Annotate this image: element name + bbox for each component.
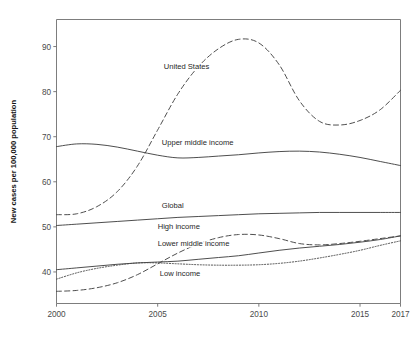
y-tick-label: 50 — [42, 223, 52, 232]
series-line-upper-middle-income — [57, 144, 401, 166]
y-tick-label: 90 — [42, 43, 52, 52]
y-axis-title: New cases per 100,000 population — [9, 100, 18, 224]
series-label-high-income: High income — [158, 222, 200, 231]
y-tick-label: 70 — [42, 133, 52, 142]
plot-frame — [57, 20, 401, 304]
series-label-low-income: Low income — [160, 269, 201, 278]
y-tick-label: 80 — [42, 88, 52, 97]
line-chart: 40506070809020002005201020152017 United … — [0, 0, 417, 339]
series-label-upper-middle-income: Upper middle income — [162, 138, 234, 147]
series-line-united-states — [57, 39, 401, 215]
x-tick-label: 2010 — [250, 310, 269, 319]
series-labels: United StatesUnited StatesUpper middle i… — [158, 62, 234, 277]
x-tick-label: 2000 — [47, 310, 66, 319]
series-label-lower-middle-income: Lower middle income — [158, 239, 230, 248]
y-axis-title-text: New cases per 100,000 population — [9, 100, 18, 224]
series-line-global — [57, 212, 401, 225]
axes: 40506070809020002005201020152017 — [42, 20, 410, 319]
series-label-united-states: United States — [164, 62, 210, 71]
x-tick-label: 2017 — [391, 310, 410, 319]
x-tick-label: 2015 — [351, 310, 370, 319]
chart-figure: 40506070809020002005201020152017 United … — [0, 0, 417, 339]
series-label-global: Global — [162, 201, 184, 210]
y-tick-label: 40 — [42, 268, 52, 277]
series-lines — [57, 39, 401, 291]
y-tick-label: 60 — [42, 178, 52, 187]
x-tick-label: 2005 — [149, 310, 168, 319]
